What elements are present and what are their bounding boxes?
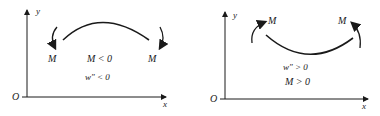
moment-label-left: M [47,53,57,64]
moment-label-right: M [147,53,157,64]
x-axis-label: x [361,101,366,111]
moment-arrow-right-icon [352,23,360,48]
y-axis-label: y [35,6,40,16]
panel-negative-moment: y x O M M M < 0 w″ < 0 [12,6,167,109]
moment-arrow-left-icon [252,22,265,43]
y-axis-label: y [232,10,237,20]
x-axis-label: x [162,99,167,109]
moment-arrow-right-icon [160,27,163,48]
moment-label-right: M [337,15,347,26]
curvature-condition: w″ > 0 [283,62,308,72]
moment-label-left: M [267,15,277,26]
concave-up-curve [266,35,353,54]
origin-label: O [210,93,217,104]
moment-condition: M > 0 [284,76,310,87]
moment-arrow-left-icon [52,27,57,48]
origin-label: O [12,91,19,102]
concave-down-curve [63,23,149,41]
beam-bending-diagram: y x O M M M < 0 w″ < 0 y x O M M w″ > 0 … [0,0,380,116]
panel-positive-moment: y x O M M w″ > 0 M > 0 [210,10,368,111]
curvature-condition: w″ < 0 [85,72,110,82]
moment-condition: M < 0 [86,53,112,64]
